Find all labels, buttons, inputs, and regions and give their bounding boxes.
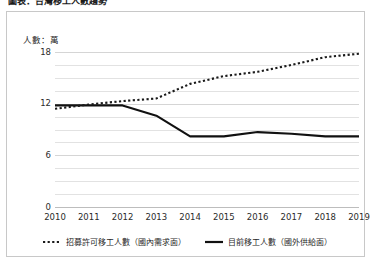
legend-item-supply: 目前移工人數（國外供給面）	[204, 236, 332, 247]
legend-label-demand: 招募許可移工人數（國內需求面）	[66, 236, 186, 247]
legend-item-demand: 招募許可移工人數（國內需求面）	[42, 236, 186, 247]
y-axis-tick-labels: 061218	[25, 52, 51, 207]
y-axis-tick-6: 6	[25, 151, 51, 160]
y-axis-unit-label: 人數：萬	[23, 33, 59, 45]
y-axis-tick-12: 12	[25, 99, 51, 108]
series-line-supply	[55, 105, 359, 136]
solid-line-swatch	[204, 238, 224, 246]
y-axis-tick-18: 18	[25, 48, 51, 57]
chart-frame: 人數：萬 061218 2010201120122013201420152016…	[6, 11, 365, 257]
series-line-demand	[55, 54, 359, 109]
chart-legend: 招募許可移工人數（國內需求面） 目前移工人數（國外供給面）	[0, 236, 373, 247]
x-axis-tick-labels: 2010201120122013201420152016201720182019	[55, 211, 359, 225]
legend-label-supply: 目前移工人數（國外供給面）	[228, 236, 332, 247]
x-axis-tick-2019: 2019	[339, 211, 373, 223]
dotted-line-swatch	[42, 238, 62, 246]
x-axis-line	[55, 207, 359, 208]
series-container	[55, 52, 359, 207]
page-title: 圖表：台灣移工人數趨勢	[8, 0, 258, 7]
